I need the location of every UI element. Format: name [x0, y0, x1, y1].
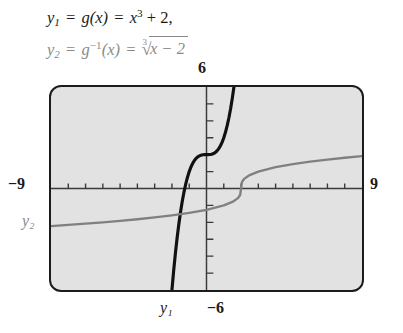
equation-y1-equals-1: =: [64, 8, 77, 27]
window-label-ymax: 6: [198, 59, 206, 77]
window-label-xmin: −9: [8, 175, 25, 193]
equation-y1-exponent: 3: [137, 7, 143, 19]
graph-plot: [51, 87, 362, 290]
equation-y2-argument: (x): [102, 40, 120, 59]
equation-y1: y1 = g(x) = x3 + 2,: [47, 2, 347, 34]
curve-label-y2: y₂: [22, 212, 35, 230]
window-label-xmax: 9: [370, 175, 378, 193]
cube-root-icon: 3√x − 2: [142, 37, 188, 61]
equation-y2-function-name: g: [82, 40, 90, 59]
equation-y1-tail: + 2,: [147, 8, 173, 27]
equation-y2-inverse-exponent: −1: [90, 39, 102, 51]
equation-y2-equals-2: =: [124, 40, 137, 59]
equation-y2-radicand: x − 2: [149, 36, 188, 60]
equation-y1-base: x: [130, 8, 137, 27]
axes: [51, 87, 362, 290]
graphing-calculator-screen: [49, 85, 364, 292]
equation-y2-subscript: 2: [54, 48, 60, 60]
window-label-ymin: −6: [207, 299, 224, 317]
equation-list: y1 = g(x) = x3 + 2, y2 = g−1(x) = 3√x − …: [47, 2, 347, 66]
equation-y2-equals-1: =: [64, 40, 77, 59]
curve-label-y1: y₁: [160, 299, 173, 317]
screen-bezel: [49, 85, 364, 292]
equation-y1-subscript: 1: [54, 16, 60, 28]
equation-y1-argument: (x): [90, 8, 108, 27]
equation-y1-equals-2: =: [112, 8, 125, 27]
equation-y2: y2 = g−1(x) = 3√x − 2: [47, 34, 347, 66]
equation-y1-function-name: g: [82, 8, 90, 27]
